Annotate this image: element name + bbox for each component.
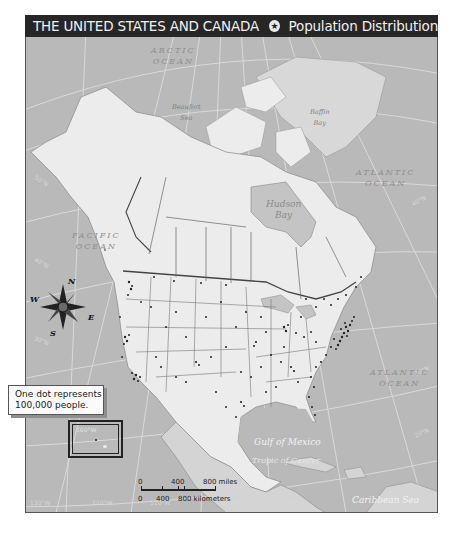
atlantic-ocean-north-label: ATLANTICOCEAN bbox=[356, 167, 415, 189]
scale-bar: 0 400 800 miles 0 400 800 kilometers bbox=[138, 478, 233, 508]
scale-tick bbox=[178, 486, 179, 491]
scale-tick bbox=[215, 486, 216, 491]
hawaii-inset-frame: 160°W bbox=[72, 424, 119, 454]
hawaii-island bbox=[103, 445, 107, 448]
scale-km-0: 0 bbox=[138, 495, 142, 503]
scale-km-400: 400 bbox=[156, 495, 169, 503]
scale-miles-800: 800 miles bbox=[203, 478, 237, 486]
arctic-ocean-label: ARCTICOCEAN bbox=[151, 45, 196, 67]
beaufort-sea-label: BeaufortSea bbox=[172, 102, 201, 124]
compass-s: S bbox=[50, 328, 56, 338]
compass-n: N bbox=[68, 276, 75, 286]
compass-rose-icon bbox=[38, 282, 88, 332]
compass-e: E bbox=[88, 312, 94, 322]
star-in-circle-icon: ★ bbox=[269, 20, 280, 32]
legend-line-2: 100,000 people. bbox=[15, 400, 103, 411]
long-label-130w: 130°W bbox=[30, 499, 50, 506]
gulf-of-mexico-label: Gulf of Mexico bbox=[254, 437, 321, 448]
scale-tick bbox=[184, 486, 185, 491]
map-title: THE UNITED STATES AND CANADA bbox=[33, 18, 259, 34]
caribbean-sea-label: Caribbean Sea bbox=[352, 495, 419, 506]
tropic-of-cancer-label: Tropic of Cancer bbox=[252, 455, 320, 466]
scale-tick bbox=[162, 486, 163, 491]
inset-longitude-label: 160°W bbox=[76, 426, 96, 433]
scale-km-800: 800 kilometers bbox=[178, 495, 231, 503]
baffin-bay-label: BaffinBay bbox=[310, 107, 330, 129]
long-label-90w: 90°W bbox=[286, 499, 303, 506]
dot-legend: One dot represents 100,000 people. bbox=[8, 385, 104, 415]
scale-miles-400: 400 bbox=[171, 478, 184, 486]
compass-rose: N W E S bbox=[38, 282, 88, 332]
legend-line-1: One dot represents bbox=[15, 389, 103, 400]
long-label-120w: 120°W bbox=[92, 499, 112, 506]
hawaii-inset: 160°W bbox=[68, 420, 123, 458]
hawaii-dot bbox=[95, 439, 97, 441]
map-subtitle: Population Distribution bbox=[289, 18, 438, 34]
pacific-ocean-label: PACIFICOCEAN bbox=[72, 230, 121, 252]
map-title-bar: THE UNITED STATES AND CANADA ★ Populatio… bbox=[25, 15, 438, 37]
scale-miles-0: 0 bbox=[138, 478, 142, 486]
scale-tick bbox=[141, 486, 142, 491]
hudson-bay-label: HudsonBay bbox=[266, 199, 301, 221]
compass-w: W bbox=[30, 294, 39, 304]
